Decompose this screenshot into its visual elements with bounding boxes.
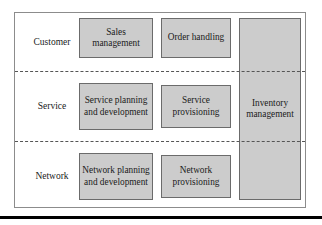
row-label-customer: Customer [21, 37, 83, 48]
process-box-service-planning-and-development: Service planning and development [79, 83, 153, 130]
layer-divider-service-network [15, 141, 305, 142]
diagram-frame: Customer Service Network Sales managemen… [14, 12, 306, 208]
row-label-service: Service [21, 101, 83, 112]
process-box-order-handling: Order handling [161, 18, 231, 58]
bottom-rule [0, 216, 322, 219]
figure-root: Customer Service Network Sales managemen… [0, 0, 322, 225]
process-box-inventory-management: Inventory management [239, 18, 301, 200]
process-box-network-planning-and-development: Network planning and development [79, 153, 153, 200]
process-box-network-provisioning: Network provisioning [161, 155, 231, 198]
layer-divider-customer-service [15, 71, 305, 72]
layer-matrix: Customer Service Network Sales managemen… [15, 13, 305, 207]
process-box-service-provisioning: Service provisioning [161, 85, 231, 128]
row-label-network: Network [21, 171, 83, 182]
process-box-sales-management: Sales management [79, 18, 153, 58]
